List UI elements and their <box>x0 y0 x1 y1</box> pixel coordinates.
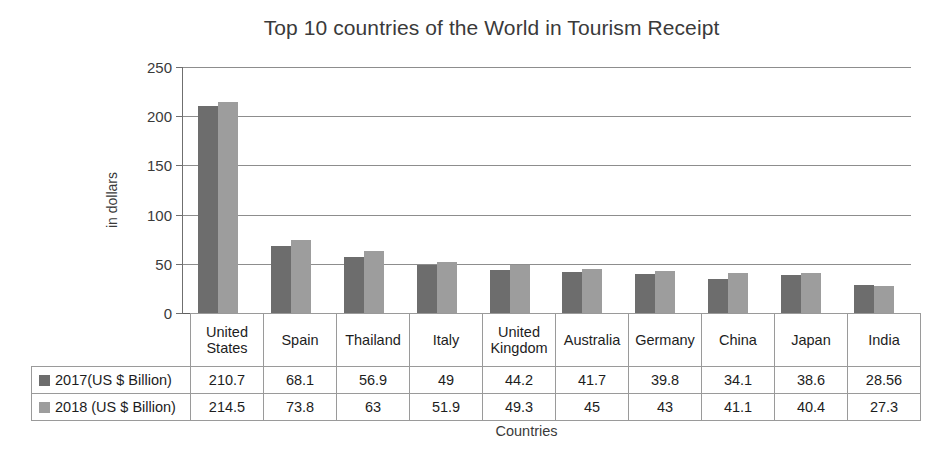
table-header-india: India <box>848 314 921 367</box>
y-tick-label-150: 150 <box>126 157 172 174</box>
bar-2017-united-states[interactable] <box>198 106 218 313</box>
bar-2017-australia[interactable] <box>562 272 582 313</box>
y-tick-label-50: 50 <box>126 255 172 272</box>
table-cell-2017-spain: 68.1 <box>264 367 337 394</box>
chart-data-table: United StatesSpainThailandItalyUnited Ki… <box>31 313 921 421</box>
table-header-italy: Italy <box>410 314 483 367</box>
table-header-spain: Spain <box>264 314 337 367</box>
table-header-germany: Germany <box>629 314 702 367</box>
bar-group-germany <box>619 67 692 313</box>
bar-2017-japan[interactable] <box>781 275 801 313</box>
bar-group-spain <box>255 67 328 313</box>
table-cell-2017-japan: 38.6 <box>775 367 848 394</box>
table-header-united-kingdom: United Kingdom <box>483 314 556 367</box>
table-row: 2018 (US $ Billion)214.573.86351.949.345… <box>32 394 921 421</box>
bar-group-australia <box>546 67 619 313</box>
bar-group-thailand <box>328 67 401 313</box>
table-header-united-states: United States <box>191 314 264 367</box>
bar-2017-italy[interactable] <box>417 265 437 313</box>
bar-2018-japan[interactable] <box>801 273 821 313</box>
table-cell-2017-thailand: 56.9 <box>337 367 410 394</box>
table-cell-2018-spain: 73.8 <box>264 394 337 421</box>
table-header-row: United StatesSpainThailandItalyUnited Ki… <box>32 314 921 367</box>
bar-2017-germany[interactable] <box>635 274 655 313</box>
legend-label: 2017(US $ Billion) <box>55 372 172 388</box>
legend-label: 2018 (US $ Billion) <box>55 399 176 415</box>
table-cell-2018-germany: 43 <box>629 394 702 421</box>
x-axis-title: Countries <box>0 423 943 439</box>
table-header-australia: Australia <box>556 314 629 367</box>
bar-group-united-states <box>182 67 255 313</box>
bar-2018-italy[interactable] <box>437 262 457 313</box>
bar-group-italy <box>400 67 473 313</box>
table-cell-2018-india: 27.3 <box>848 394 921 421</box>
table-row: 2017(US $ Billion)210.768.156.94944.241.… <box>32 367 921 394</box>
bars-layer <box>182 67 910 313</box>
table-cell-2018-china: 41.1 <box>702 394 775 421</box>
bar-2018-india[interactable] <box>874 286 894 313</box>
bar-group-china <box>692 67 765 313</box>
table-cell-2018-thailand: 63 <box>337 394 410 421</box>
bar-2018-spain[interactable] <box>291 240 311 313</box>
legend-swatch-icon-2018 <box>39 402 50 413</box>
y-axis-title: in dollars <box>104 160 126 240</box>
legend-entry-2018: 2018 (US $ Billion) <box>32 394 191 421</box>
table-cell-2017-china: 34.1 <box>702 367 775 394</box>
table-cell-2018-australia: 45 <box>556 394 629 421</box>
table-cell-2018-japan: 40.4 <box>775 394 848 421</box>
bar-2018-australia[interactable] <box>582 269 602 313</box>
table-cell-2017-italy: 49 <box>410 367 483 394</box>
bar-2017-india[interactable] <box>854 285 874 313</box>
bar-2017-united-kingdom[interactable] <box>490 270 510 313</box>
table-cell-2018-italy: 51.9 <box>410 394 483 421</box>
table-header-thailand: Thailand <box>337 314 410 367</box>
bar-2018-thailand[interactable] <box>364 251 384 313</box>
table-cell-2017-germany: 39.8 <box>629 367 702 394</box>
bar-2017-thailand[interactable] <box>344 257 364 313</box>
table-corner-blank <box>32 314 191 367</box>
table-cell-2017-australia: 41.7 <box>556 367 629 394</box>
table-header-china: China <box>702 314 775 367</box>
y-tick-label-100: 100 <box>126 206 172 223</box>
bar-2018-germany[interactable] <box>655 271 675 313</box>
table-cell-2017-united-states: 210.7 <box>191 367 264 394</box>
bar-group-japan <box>764 67 837 313</box>
bar-2018-china[interactable] <box>728 273 748 313</box>
bar-2017-spain[interactable] <box>271 246 291 313</box>
legend-swatch-icon-2017 <box>39 375 50 386</box>
table-header-japan: Japan <box>775 314 848 367</box>
bar-2018-united-states[interactable] <box>218 102 238 313</box>
bar-2018-united-kingdom[interactable] <box>510 265 530 314</box>
bar-2017-china[interactable] <box>708 279 728 313</box>
table-cell-2017-india: 28.56 <box>848 367 921 394</box>
bar-group-united-kingdom <box>473 67 546 313</box>
y-tick-label-250: 250 <box>126 59 172 76</box>
y-tick-label-200: 200 <box>126 108 172 125</box>
table-cell-2018-united-kingdom: 49.3 <box>483 394 556 421</box>
bar-group-india <box>837 67 910 313</box>
table-cell-2018-united-states: 214.5 <box>191 394 264 421</box>
data-table-body: United StatesSpainThailandItalyUnited Ki… <box>32 314 921 421</box>
table-cell-2017-united-kingdom: 44.2 <box>483 367 556 394</box>
legend-entry-2017: 2017(US $ Billion) <box>32 367 191 394</box>
